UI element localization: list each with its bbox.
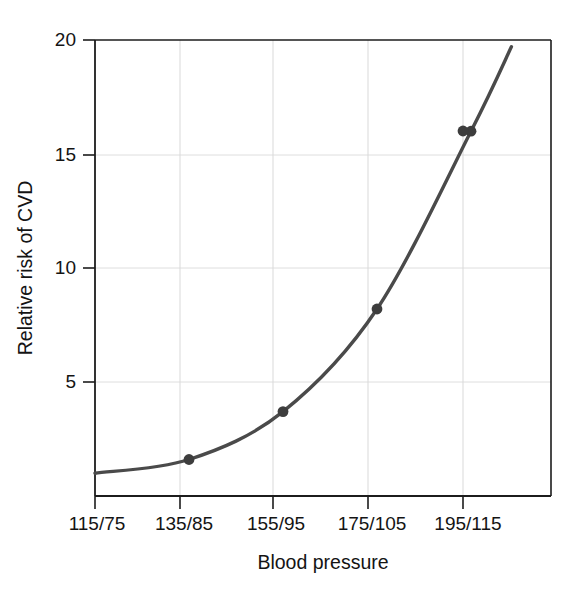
data-point-155-95 [372, 304, 383, 315]
y-tick-marks [83, 40, 95, 382]
data-point-135-85 [278, 406, 289, 417]
xtick-label-155-95: 155/95 [247, 513, 305, 535]
xtick-label-195-115: 195/115 [434, 513, 501, 535]
xtick-label-135-85: 135/85 [155, 513, 213, 535]
chart-figure: 20 15 10 5 115/75 135/85 155/95 175/105 … [0, 0, 588, 594]
chart-plot-area [0, 0, 588, 594]
xtick-label-115-75: 115/75 [69, 513, 126, 535]
ytick-label-5: 5 [32, 371, 76, 393]
ytick-label-20: 20 [32, 29, 76, 51]
data-point-115-75 [184, 454, 195, 465]
ytick-label-10: 10 [32, 257, 76, 279]
data-point-195-115 [458, 126, 469, 137]
y-axis-title: Relative risk of CVD [14, 181, 37, 355]
ytick-label-15: 15 [32, 144, 76, 166]
xtick-label-175-105: 175/105 [338, 513, 407, 535]
x-axis-title: Blood pressure [257, 551, 388, 574]
x-tick-marks [95, 496, 463, 509]
